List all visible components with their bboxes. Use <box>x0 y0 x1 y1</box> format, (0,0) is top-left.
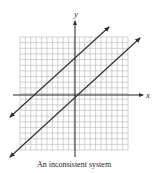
coordinate-graph: x y An inconsistent system <box>0 0 158 173</box>
y-axis-label: y <box>73 9 78 19</box>
figure-caption: An inconsistent system <box>37 160 112 169</box>
upper-line <box>10 27 109 117</box>
x-axis-label: x <box>145 90 150 100</box>
